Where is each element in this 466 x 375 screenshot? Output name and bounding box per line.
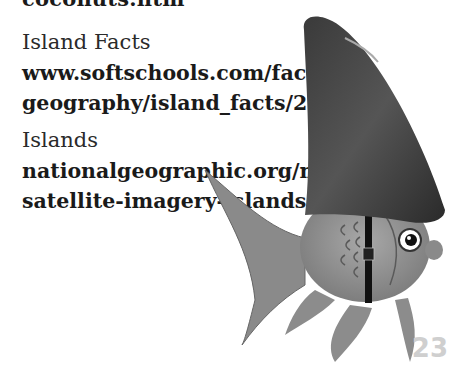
- shark-fin-hat: [304, 17, 445, 223]
- bottom-fin-left: [285, 290, 335, 335]
- resource-label-island-facts: Island Facts: [22, 30, 151, 54]
- goldfish-wearing-shark-fin-icon: [196, 8, 456, 368]
- tail-fin: [205, 170, 305, 345]
- resource-label-islands: Islands: [22, 128, 98, 152]
- cut-off-url: coconuts.htm: [22, 0, 185, 11]
- page-number: 23: [412, 333, 448, 363]
- bottom-fin-mid: [331, 305, 372, 362]
